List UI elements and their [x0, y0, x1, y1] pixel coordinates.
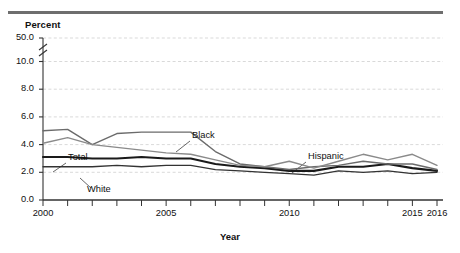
x-tick-label: 2016: [417, 208, 457, 218]
x-tick-label: 2000: [23, 208, 63, 218]
series-line-black: [43, 129, 437, 169]
chart-plot: [0, 0, 460, 253]
x-tick-label: 2010: [269, 208, 309, 218]
series-label-white: White: [87, 184, 111, 194]
chart-root: Percent Year 0.02.04.06.08.010.050.0 200…: [0, 0, 460, 253]
y-tick-label: 2.0: [0, 166, 34, 176]
series-label-total: Total: [68, 152, 88, 162]
x-tick-label: 2005: [146, 208, 186, 218]
y-tick-label: 50.0: [0, 32, 34, 42]
axis-lines: [43, 38, 443, 200]
y-tick-label: 6.0: [0, 111, 34, 121]
gridlines: [43, 38, 443, 200]
series-label-hispanic: Hispanic: [308, 151, 344, 161]
label-leader-lines: [53, 141, 306, 188]
y-tick-label: 4.0: [0, 139, 34, 149]
series-label-black: Black: [192, 130, 215, 140]
data-series: [43, 129, 437, 175]
x-tick-marks: [43, 200, 437, 206]
y-tick-label: 8.0: [0, 83, 34, 93]
y-tick-marks: [39, 38, 43, 200]
y-tick-label: 0.0: [0, 194, 34, 204]
y-tick-label: 10.0: [0, 56, 34, 66]
